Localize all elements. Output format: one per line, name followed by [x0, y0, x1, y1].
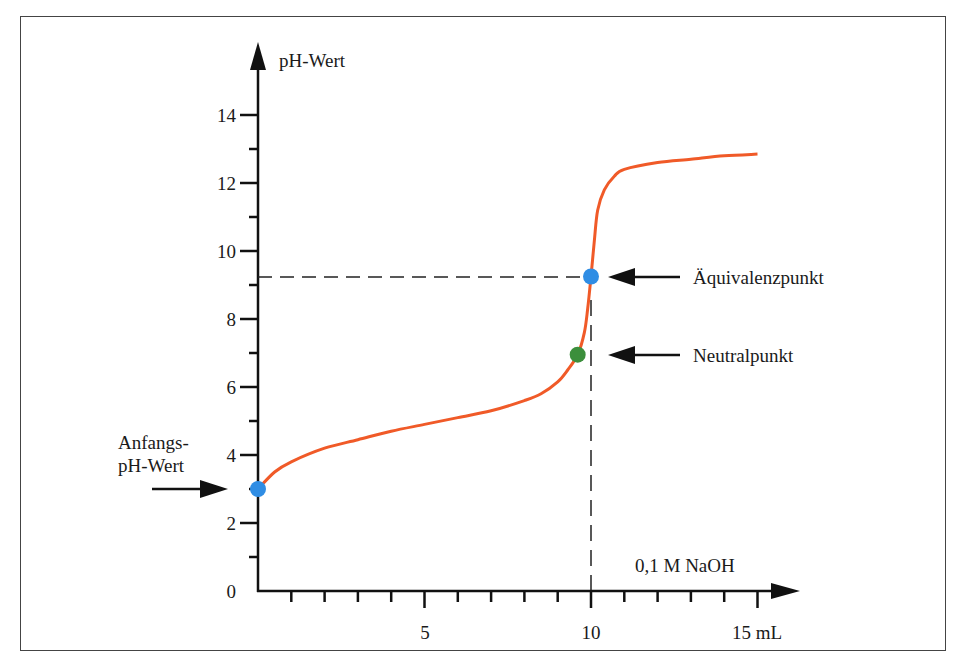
equivalence-arrow-icon [608, 268, 680, 286]
neutral-arrow-icon [608, 346, 680, 364]
x-tick-label-15: 15 mL [732, 622, 782, 643]
y-axis: 02468101214 pH-Wert [217, 42, 346, 602]
neutral-label: Neutralpunkt [693, 345, 794, 366]
y-tick-label: 6 [227, 377, 237, 398]
x-axis-ticks [291, 591, 757, 608]
y-axis-label: pH-Wert [279, 50, 346, 71]
neutral-point [570, 347, 586, 363]
start-ph-label-line2: pH-Wert [118, 455, 185, 476]
start-ph-point [250, 481, 266, 497]
start-ph-label-line1: Anfangs- [118, 432, 189, 453]
y-tick-label: 12 [217, 173, 236, 194]
y-tick-label: 2 [227, 513, 237, 534]
y-tick-label: 0 [227, 581, 237, 602]
y-tick-label: 4 [227, 445, 237, 466]
y-tick-label: 14 [217, 105, 237, 126]
titration-chart: 02468101214 pH-Wert 5 10 15 mL 0,1 M NaO… [0, 0, 961, 670]
equivalence-point [583, 269, 599, 285]
y-axis-arrow-icon [250, 42, 266, 70]
y-tick-label: 10 [217, 241, 236, 262]
titration-curve [258, 154, 758, 489]
equivalence-label: Äquivalenzpunkt [693, 267, 825, 288]
x-tick-label-10: 10 [582, 622, 601, 643]
x-axis-arrow-icon [771, 583, 800, 599]
x-tick-label-5: 5 [420, 622, 430, 643]
x-axis: 5 10 15 mL 0,1 M NaOH [257, 555, 800, 643]
x-axis-label: 0,1 M NaOH [635, 555, 735, 576]
y-tick-label: 8 [227, 309, 237, 330]
y-axis-ticks: 02468101214 [217, 105, 258, 602]
start-ph-arrow-icon [152, 480, 228, 498]
